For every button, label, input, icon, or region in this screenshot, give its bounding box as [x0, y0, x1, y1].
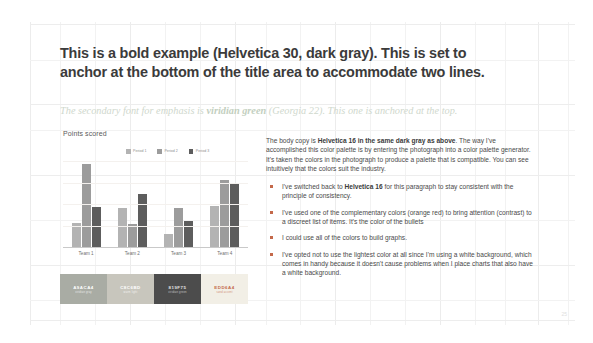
bullet-text-part1: I could use all of the colors to build g…: [282, 234, 407, 241]
legend-swatch-icon: [189, 149, 194, 154]
body-p1: The body copy is: [266, 137, 318, 144]
legend-swatch-icon: [126, 149, 131, 154]
chart-title: Points scored: [63, 130, 107, 137]
page-title: This is a bold example (Helvetica 30, da…: [60, 44, 530, 82]
bullet-item: I could use all of the colors to build g…: [266, 233, 534, 242]
palette-sub-label: sand accent: [216, 291, 232, 294]
bar-chart: Points scored Period 1Period 2Period 3 T…: [60, 130, 248, 265]
bullet-marker-icon: [270, 253, 273, 256]
bullet-item: I've switched back to Helvetica 16 for t…: [266, 182, 534, 201]
chart-bar: [118, 208, 127, 247]
page-number: 25: [561, 311, 567, 317]
subtitle-emphasis: viridian green: [206, 105, 266, 116]
chart-plot-area: [63, 161, 248, 248]
chart-bar: [72, 223, 81, 247]
chart-bar: [82, 164, 91, 247]
palette-hex-label: EDD6A4: [214, 285, 234, 290]
bullet-list: I've switched back to Helvetica 16 for t…: [266, 182, 534, 277]
bullet-text-part1: I've switched back to: [282, 183, 344, 190]
legend-item: Period 3: [189, 149, 209, 154]
bullet-text-bold: Helvetica 16: [344, 183, 382, 190]
chart-bar: [230, 183, 239, 247]
chart-bar: [220, 180, 229, 247]
palette-swatch: 819F75viridian green: [154, 274, 201, 304]
bullet-marker-icon: [270, 185, 273, 188]
chart-x-axis: Team 1Team 2Team 3Team 4: [63, 251, 248, 256]
x-axis-label: Team 1: [79, 251, 94, 256]
bullet-marker-icon: [270, 211, 273, 214]
subtitle: The secondary font for emphasis is virid…: [60, 104, 538, 117]
chart-gridline: [63, 161, 248, 162]
legend-label: Period 2: [164, 149, 177, 153]
chart-bar: [164, 234, 173, 247]
bullet-text-part1: I've used one of the complementary color…: [282, 209, 532, 225]
bullet-marker-icon: [270, 236, 273, 239]
subtitle-after: (Georgia 22). This one is anchored at th…: [266, 105, 457, 116]
palette-hex-label: 819F75: [169, 285, 187, 290]
legend-item: Period 2: [157, 149, 177, 154]
chart-bar: [138, 194, 147, 247]
chart-gridline: [63, 204, 248, 205]
chart-bar: [128, 224, 137, 247]
legend-swatch-icon: [157, 149, 162, 154]
palette-hex-label: A9ACA4: [73, 285, 94, 290]
legend-label: Period 3: [196, 149, 209, 153]
chart-bar: [174, 208, 183, 247]
body-column: The body copy is Helvetica 16 in the sam…: [266, 136, 534, 285]
palette-sub-label: viridian gray: [75, 291, 92, 294]
x-axis-label: Team 4: [217, 251, 232, 256]
palette-swatch: EDD6A4sand accent: [201, 274, 248, 304]
legend-item: Period 1: [126, 149, 146, 154]
slide-canvas: This is a bold example (Helvetica 30, da…: [0, 0, 593, 343]
palette-hex-label: C8C6BD: [120, 285, 141, 290]
subtitle-before: The secondary font for emphasis is: [60, 105, 206, 116]
title-line-1: This is a bold example (Helvetica 30, da…: [60, 44, 530, 63]
bullet-item: I've opted not to use the lightest color…: [266, 250, 534, 278]
palette-swatch: A9ACA4viridian gray: [60, 274, 107, 304]
palette-swatch: C8C6BDwarm light: [107, 274, 154, 304]
bullet-text-part1: I've opted not to use the lightest color…: [282, 251, 533, 277]
title-line-2: anchor at the bottom of the title area t…: [60, 63, 530, 82]
chart-bar: [92, 207, 101, 247]
chart-legend: Period 1Period 2Period 3: [126, 149, 209, 154]
legend-label: Period 1: [133, 149, 146, 153]
palette-sub-label: warm light: [124, 291, 138, 294]
chart-gridline: [63, 226, 248, 227]
x-axis-label: Team 2: [125, 251, 140, 256]
chart-gridline: [63, 183, 248, 184]
palette-sub-label: viridian green: [168, 291, 186, 294]
body-b1: Helvetica 16 in the same dark gray as ab…: [318, 137, 456, 144]
color-palette-strip: A9ACA4viridian grayC8C6BDwarm light819F7…: [60, 274, 248, 304]
x-axis-label: Team 3: [171, 251, 186, 256]
bullet-item: I've used one of the complementary color…: [266, 208, 534, 227]
body-paragraph: The body copy is Helvetica 16 in the sam…: [266, 136, 534, 173]
